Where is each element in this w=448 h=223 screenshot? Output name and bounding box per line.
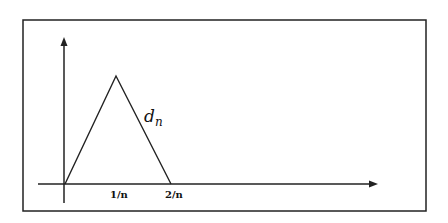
y-axis-arrow-icon <box>61 37 68 46</box>
function-curve-dn <box>65 76 171 184</box>
figure-frame <box>23 20 426 211</box>
x-axis-arrow-icon <box>369 181 378 188</box>
function-label: dn <box>144 106 163 129</box>
tick-label-1-over-n: 1/n <box>110 189 129 200</box>
diagram-canvas: dn 1/n 2/n <box>0 0 448 223</box>
tick-label-2-over-n: 2/n <box>165 189 184 200</box>
